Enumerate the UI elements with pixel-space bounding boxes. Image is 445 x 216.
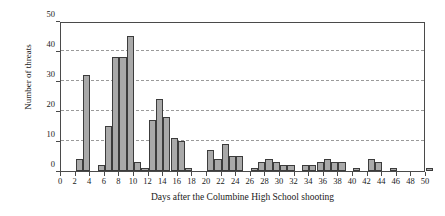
x-axis-label: Days after the Columbine High School sho… (60, 192, 425, 202)
bar (338, 162, 345, 171)
bar (324, 159, 331, 171)
bar (134, 162, 141, 171)
x-tick-label: 30 (275, 177, 284, 186)
x-tick-label: 32 (289, 177, 298, 186)
x-tick-label: 40 (348, 177, 357, 186)
x-axis: 0246810121416182022242628303234363840424… (60, 172, 425, 194)
bar (83, 75, 90, 171)
bar (368, 159, 375, 171)
plot-area (60, 22, 425, 172)
x-tick-label: 12 (143, 177, 152, 186)
bar (207, 150, 214, 171)
x-tick-label: 36 (319, 177, 328, 186)
x-tick-label: 22 (216, 177, 225, 186)
bar (141, 168, 148, 171)
x-tick-label: 14 (158, 177, 167, 186)
bar (222, 144, 229, 171)
bar (426, 168, 433, 171)
y-tick-label: 30 (47, 70, 56, 78)
bar (280, 165, 287, 171)
x-tick-label: 10 (129, 177, 138, 186)
x-tick-label: 26 (246, 177, 255, 186)
bar (229, 156, 236, 171)
bar (119, 57, 126, 171)
x-tick-label: 48 (406, 177, 415, 186)
y-tick-label: 0 (51, 160, 55, 168)
x-tick-label: 28 (260, 177, 269, 186)
y-tick-label: 20 (47, 100, 56, 108)
x-tick-label: 8 (116, 177, 120, 186)
x-tick-label: 2 (72, 177, 76, 186)
bar (375, 162, 382, 171)
y-tick-label: 10 (47, 130, 56, 138)
bar (390, 168, 397, 171)
bar (258, 162, 265, 171)
x-tick-label: 44 (377, 177, 386, 186)
bar (76, 159, 83, 171)
bar (353, 168, 360, 171)
bar (309, 165, 316, 171)
x-tick-label: 0 (58, 177, 62, 186)
x-tick-label: 20 (202, 177, 211, 186)
bar (265, 159, 272, 171)
x-tick-label: 46 (392, 177, 401, 186)
bar (171, 138, 178, 171)
bar (178, 141, 185, 171)
bar (127, 36, 134, 171)
x-tick-label: 4 (87, 177, 91, 186)
bar (98, 165, 105, 171)
bar (251, 168, 258, 171)
bar (156, 99, 163, 171)
chart-figure: Number of threats 01020304050 0246810121… (0, 0, 445, 216)
bar (287, 165, 294, 171)
y-axis-label: Number of threats (23, 7, 33, 147)
bar (112, 57, 119, 171)
bar (105, 126, 112, 171)
bar (302, 165, 309, 171)
y-tick-label: 40 (47, 40, 56, 48)
bar (236, 156, 243, 171)
x-tick-label: 38 (333, 177, 342, 186)
x-tick-label: 16 (173, 177, 182, 186)
x-tick-label: 18 (187, 177, 196, 186)
bar (149, 120, 156, 171)
x-tick-label: 50 (421, 177, 430, 186)
bar-series (61, 23, 424, 171)
x-tick-label: 6 (102, 177, 106, 186)
x-tick-label: 42 (362, 177, 371, 186)
y-axis: Number of threats 01020304050 (0, 22, 60, 172)
bar (163, 117, 170, 171)
bar (214, 159, 221, 171)
bar (331, 162, 338, 171)
bar (185, 168, 192, 171)
x-tick-label: 34 (304, 177, 313, 186)
x-tick-label: 24 (231, 177, 240, 186)
bar (317, 162, 324, 171)
bar (273, 162, 280, 171)
y-tick-label: 50 (47, 10, 56, 18)
